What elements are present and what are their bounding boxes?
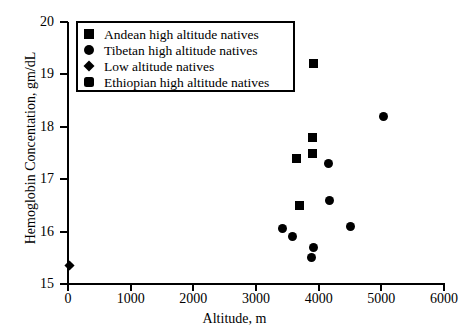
rounded-square-marker-icon [84,77,94,87]
data-point [309,243,318,252]
x-tick-label: 1000 [101,292,161,306]
x-tick-label: 6000 [414,292,469,306]
data-point [278,224,287,233]
y-tick [60,178,68,180]
legend-label-ethiopian: Ethiopian high altitude natives [104,75,269,90]
y-tick [60,231,68,233]
data-point [379,112,388,121]
x-tick-label: 5000 [351,292,411,306]
data-point [308,133,317,142]
diamond-marker-icon [83,60,94,71]
circle-marker-icon [84,45,94,55]
legend: Andean high altitude natives Tibetan hig… [76,21,295,92]
y-tick [60,126,68,128]
legend-label-tibetan: Tibetan high altitude natives [104,43,258,58]
data-point [324,159,333,168]
square-marker-icon [84,29,94,39]
data-point [288,232,297,241]
x-tick [192,283,194,291]
y-tick [60,73,68,75]
x-axis-title: Altitude, m [0,311,469,327]
data-point [295,201,304,210]
legend-item-low-altitude: Low altitude natives [84,58,293,74]
legend-label-andean: Andean high altitude natives [104,27,259,42]
legend-item-andean: Andean high altitude natives [84,26,293,42]
x-tick-label: 0 [38,292,98,306]
data-point [308,149,317,158]
x-tick [443,283,445,291]
legend-item-tibetan: Tibetan high altitude natives [84,42,293,58]
x-tick-label: 2000 [163,292,223,306]
x-tick [380,283,382,291]
x-tick-label: 4000 [289,292,349,306]
x-tick [318,283,320,291]
y-axis-title: Hemoglobin Concentation, gm/dL [23,13,39,283]
data-point [309,59,318,68]
x-tick [130,283,132,291]
data-point [325,196,334,205]
data-point [346,222,355,231]
x-tick [67,283,69,291]
legend-item-ethiopian: Ethiopian high altitude natives [84,74,293,90]
data-point [307,253,316,262]
legend-label-low-altitude: Low altitude natives [104,59,214,74]
x-tick-label: 3000 [226,292,286,306]
data-point [292,154,301,163]
y-tick [60,21,68,23]
scatter-chart: 151617181920 0100020003000400050006000 A… [0,0,469,335]
y-axis-line [67,22,69,285]
x-tick [255,283,257,291]
